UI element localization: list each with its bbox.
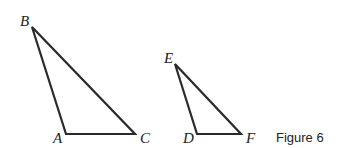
vertex-label-a: A (52, 130, 63, 146)
triangle-def-shape (175, 64, 241, 134)
vertex-label-b: B (20, 13, 29, 29)
vertex-label-f: F (245, 130, 256, 146)
triangle-def: D E F (163, 50, 256, 146)
triangle-abc-shape (32, 27, 135, 134)
vertex-label-d: D (182, 130, 194, 146)
figure-6-diagram: A B C D E F Figure 6 (0, 0, 339, 148)
triangle-abc: A B C (20, 13, 151, 146)
vertex-label-c: C (140, 130, 151, 146)
vertex-label-e: E (163, 50, 173, 66)
figure-caption: Figure 6 (276, 130, 324, 145)
